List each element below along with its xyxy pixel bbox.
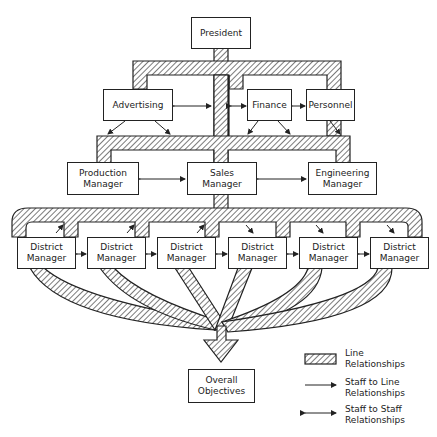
production-manager-box: Production Manager xyxy=(67,162,139,195)
finance-box: Finance xyxy=(247,89,292,121)
district-manager-line2: Manager xyxy=(167,253,206,264)
district-manager-box-1: District Manager xyxy=(17,237,76,269)
advertising-box: Advertising xyxy=(103,89,173,121)
production-manager-line2: Manager xyxy=(83,179,122,190)
production-manager-line1: Production xyxy=(79,168,127,179)
district-manager-line2: Manager xyxy=(97,253,136,264)
district-manager-line2: Manager xyxy=(27,253,66,264)
personnel-box: Personnel xyxy=(306,89,355,121)
president-label: President xyxy=(200,28,242,39)
line-relationships xyxy=(12,48,422,364)
overall-objectives-line2: Objectives xyxy=(198,386,245,397)
legend-staff-to-line-title: Staff to Line xyxy=(345,377,399,387)
legend-line-relationships: Line Relationships xyxy=(345,348,405,370)
sales-manager-line2: Manager xyxy=(202,179,241,190)
legend-line-subtitle: Relationships xyxy=(345,359,405,369)
advertising-label: Advertising xyxy=(113,100,164,111)
legend-staff-to-staff-title: Staff to Staff xyxy=(345,404,402,414)
sales-manager-line1: Sales xyxy=(210,168,234,179)
district-manager-line1: District xyxy=(241,242,273,253)
engineering-manager-line1: Engineering xyxy=(316,168,370,179)
overall-objectives-box: Overall Objectives xyxy=(188,369,255,403)
sales-manager-box: Sales Manager xyxy=(187,162,257,195)
district-manager-box-2: District Manager xyxy=(87,237,146,269)
district-manager-line1: District xyxy=(100,242,132,253)
legend-staff-to-line-subtitle: Relationships xyxy=(345,388,405,398)
district-manager-box-3: District Manager xyxy=(157,237,216,269)
district-manager-line2: Manager xyxy=(309,253,348,264)
finance-label: Finance xyxy=(252,100,286,111)
personnel-label: Personnel xyxy=(309,100,353,111)
org-chart: President Advertising Finance Personnel … xyxy=(0,0,437,437)
district-manager-line1: District xyxy=(312,242,344,253)
engineering-manager-line2: Manager xyxy=(323,179,362,190)
district-manager-box-4: District Manager xyxy=(228,237,287,269)
president-box: President xyxy=(191,17,251,49)
district-manager-box-6: District Manager xyxy=(370,237,429,269)
overall-objectives-line1: Overall xyxy=(205,375,237,386)
district-manager-line2: Manager xyxy=(238,253,277,264)
district-manager-line1: District xyxy=(383,242,415,253)
legend-line-title: Line xyxy=(345,348,364,358)
legend-staff-to-line: Staff to Line Relationships xyxy=(345,377,405,399)
district-manager-box-5: District Manager xyxy=(299,237,358,269)
district-manager-line2: Manager xyxy=(380,253,419,264)
engineering-manager-box: Engineering Manager xyxy=(308,162,377,195)
district-manager-line1: District xyxy=(170,242,202,253)
district-manager-line1: District xyxy=(30,242,62,253)
legend-staff-to-staff-subtitle: Relationships xyxy=(345,415,405,425)
legend-staff-to-staff: Staff to Staff Relationships xyxy=(345,404,405,426)
